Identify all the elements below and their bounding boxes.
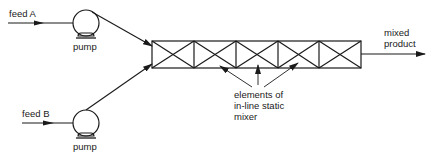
flow-diagram <box>0 0 434 157</box>
pump-a-label: pump <box>73 41 97 52</box>
static-mixer <box>152 41 361 68</box>
element-leader-lines <box>220 63 298 87</box>
pump-b-to-mixer-line <box>86 64 152 110</box>
feed-b-label: feed B <box>22 108 49 119</box>
feed-a-line <box>8 21 73 26</box>
pump-b-label: pump <box>73 141 97 152</box>
output-label: mixed product <box>384 27 416 49</box>
pump-a-to-mixer-line <box>92 12 152 46</box>
feed-a-label: feed A <box>9 8 36 19</box>
pump-b-icon <box>73 110 99 138</box>
feed-b-line <box>22 121 73 126</box>
mixer-annotation: elements of in-line static mixer <box>234 89 284 122</box>
